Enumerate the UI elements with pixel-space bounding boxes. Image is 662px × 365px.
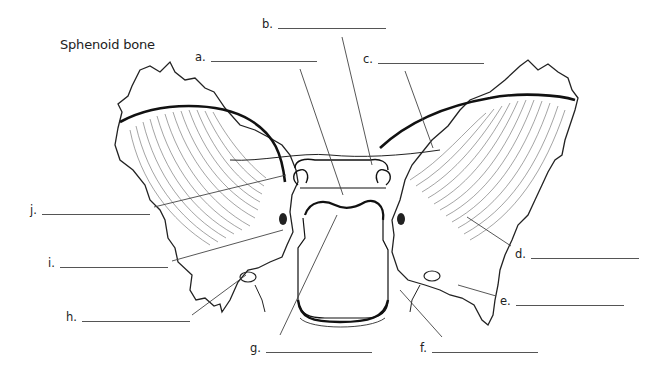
left-wing-hatching xyxy=(130,110,266,245)
answer-blank-f[interactable] xyxy=(432,352,538,353)
leader-line-c xyxy=(405,71,433,148)
label-h: h. xyxy=(66,310,190,324)
right-wing-hatching xyxy=(410,100,565,240)
leader-line-f xyxy=(400,290,442,337)
label-letter: i. xyxy=(48,256,55,270)
leader-lines xyxy=(154,37,511,337)
label-letter: a. xyxy=(195,50,206,64)
label-letter: c. xyxy=(363,52,373,66)
label-letter: h. xyxy=(66,310,77,324)
label-d: d. xyxy=(515,247,639,261)
leader-line-d xyxy=(467,217,511,246)
leader-line-e xyxy=(458,285,496,296)
left-foramen-rotundum xyxy=(279,213,287,225)
label-f: f. xyxy=(420,341,538,355)
label-letter: j. xyxy=(30,203,37,217)
label-j: j. xyxy=(30,203,150,217)
label-g: g. xyxy=(250,341,372,355)
answer-blank-h[interactable] xyxy=(82,321,190,322)
clinoid-processes xyxy=(294,159,391,188)
label-c: c. xyxy=(363,52,484,66)
label-b: b. xyxy=(262,17,386,31)
right-foramen-ovale xyxy=(424,271,440,281)
leader-line-a xyxy=(300,69,343,195)
answer-blank-i[interactable] xyxy=(60,267,168,268)
leader-line-h xyxy=(192,275,246,315)
sphenoid-body xyxy=(298,201,388,327)
answer-blank-d[interactable] xyxy=(531,258,639,259)
label-e: e. xyxy=(500,294,624,308)
right-foramen-rotundum xyxy=(397,213,405,225)
label-letter: e. xyxy=(500,294,511,308)
answer-blank-j[interactable] xyxy=(42,214,150,215)
answer-blank-a[interactable] xyxy=(211,61,317,62)
label-letter: g. xyxy=(250,341,261,355)
label-i: i. xyxy=(48,256,168,270)
leader-line-i xyxy=(172,230,283,261)
answer-blank-g[interactable] xyxy=(266,352,372,353)
label-letter: f. xyxy=(420,341,427,355)
answer-blank-e[interactable] xyxy=(516,305,624,306)
label-a: a. xyxy=(195,50,317,64)
label-letter: d. xyxy=(515,247,526,261)
answer-blank-c[interactable] xyxy=(378,63,484,64)
label-letter: b. xyxy=(262,17,273,31)
left-greater-wing xyxy=(115,62,298,312)
answer-blank-b[interactable] xyxy=(278,28,386,29)
